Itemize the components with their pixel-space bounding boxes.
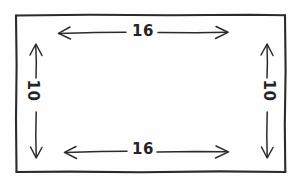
- dimension-label-bottom: 16: [132, 142, 154, 157]
- rectangle-bottom-edge: [17, 171, 286, 172]
- bottom-arrow-shaft-right: [157, 151, 227, 152]
- top-arrow-shaft-right: [158, 32, 227, 33]
- rectangle-right-edge: [285, 15, 286, 172]
- left-arrow-shaft-upper: [36, 45, 37, 78]
- bottom-arrow-shaft-left: [65, 151, 127, 152]
- dimension-label-left: 10: [25, 80, 40, 102]
- top-arrow-shaft-left: [59, 32, 126, 33]
- dimension-label-top: 16: [132, 24, 154, 39]
- dimension-label-right: 10: [261, 80, 276, 102]
- rectangle-left-edge: [16, 16, 17, 173]
- rectangle-top-edge: [16, 15, 285, 16]
- sketch-canvas: 16 16 10 10: [0, 0, 298, 182]
